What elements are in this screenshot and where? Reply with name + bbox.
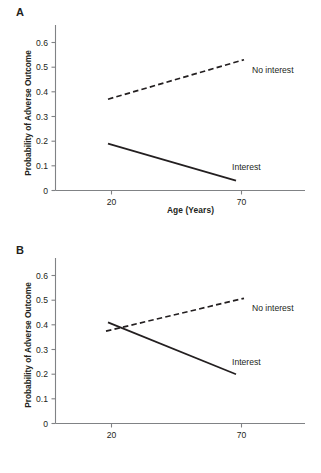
- panel-b-ytick-label-6: 0: [43, 419, 48, 429]
- panel-a-ytick-label-3: 0.3: [36, 112, 48, 122]
- panel-a-label-interest: Interest: [232, 162, 261, 172]
- panel-a-ytick-label-6: 0: [43, 186, 48, 196]
- panel-b-ytick-label-2: 0.4: [36, 320, 48, 330]
- panel-b-xtick-label-0: 20: [107, 430, 117, 440]
- panel-a-ytick-label-2: 0.4: [36, 87, 48, 97]
- panel-b-ytick-label-5: 0.1: [36, 394, 48, 404]
- panel-a-series-no-interest: [108, 60, 244, 99]
- panel-a-label-no-interest: No interest: [252, 65, 294, 75]
- panel-a-ytick-label-0: 0.6: [36, 38, 48, 48]
- panel-a-series-interest: [108, 144, 236, 181]
- panel-a-ytick-label-5: 0.1: [36, 161, 48, 171]
- panel-b-plot: 0.6 0.5 0.4 0.3 0.2 0.1 0 20 70 No inter…: [0, 240, 321, 450]
- panel-a-plot: 0.6 0.5 0.4 0.3 0.2 0.1 0 20 70 No inter…: [0, 0, 321, 215]
- panel-a-ytick-label-1: 0.5: [36, 62, 48, 72]
- panel-b-ytick-label-3: 0.3: [36, 345, 48, 355]
- panel-b: B Probability of Adverse Outcome 0.6 0.5…: [0, 240, 321, 473]
- panel-b-label-interest: Interest: [232, 357, 261, 367]
- panel-b-xtick-label-1: 70: [237, 430, 247, 440]
- panel-b-ytick-label-0: 0.6: [36, 271, 48, 281]
- panel-b-series-no-interest: [106, 298, 244, 331]
- panel-b-ytick-label-4: 0.2: [36, 369, 48, 379]
- panel-a: A Probability of Adverse Outcome 0.6 0.5…: [0, 0, 321, 240]
- panel-b-ytick-label-1: 0.5: [36, 295, 48, 305]
- panel-a-ytick-label-4: 0.2: [36, 136, 48, 146]
- panel-b-series-interest: [108, 322, 236, 374]
- panel-a-x-axis-label: Age (Years): [0, 205, 321, 215]
- panel-b-label-no-interest: No interest: [252, 303, 294, 313]
